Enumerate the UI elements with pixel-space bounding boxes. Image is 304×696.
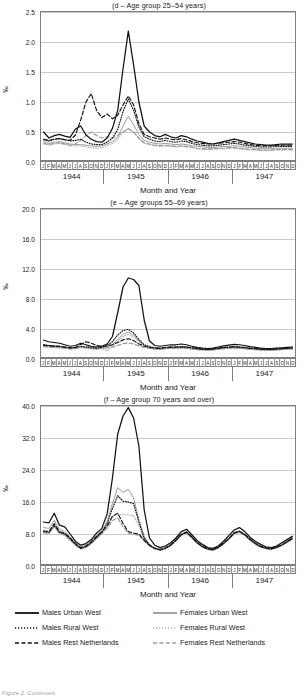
- year-label: 1944: [40, 367, 104, 381]
- legend-line-swatch: [152, 624, 178, 632]
- legend-item: Males Rural West: [14, 623, 152, 632]
- chart-panel: (d – Age group 25–54 years)0.00.51.01.52…: [0, 0, 304, 197]
- data-series: [44, 496, 293, 550]
- y-axis-tick-label: 8.0: [5, 296, 35, 303]
- data-series: [44, 488, 293, 550]
- y-axis-tick-label: 0.0: [5, 356, 35, 363]
- series-lines: [41, 209, 295, 359]
- legend-label: Males Rural West: [42, 623, 99, 632]
- year-label-row: 1944194519461947: [40, 170, 296, 184]
- x-axis-title: Month and Year: [40, 381, 296, 394]
- legend-item: Females Rural West: [152, 623, 290, 632]
- month-tick-row: JFMAMJJASONDJFMAMJJASONDJFMAMJJASONDJFMA…: [40, 358, 296, 367]
- chart-panel: (e – Age groups 55–69 years)0.04.08.012.…: [0, 197, 304, 394]
- legend-item: Females Rest Netherlands: [152, 638, 290, 647]
- year-label: 1944: [40, 574, 104, 588]
- year-label: 1945: [104, 367, 168, 381]
- chart-legend: Males Urban WestFemales Urban WestMales …: [14, 605, 290, 650]
- legend-line-swatch: [152, 639, 178, 647]
- y-axis-tick-label: 1.5: [5, 69, 35, 76]
- y-axis-tick-label: 0.5: [5, 129, 35, 136]
- data-series: [44, 94, 293, 146]
- data-series: [44, 31, 293, 145]
- y-axis-tick-label: 16.0: [5, 236, 35, 243]
- month-tick-row: JFMAMJJASONDJFMAMJJASONDJFMAMJJASONDJFMA…: [40, 565, 296, 574]
- year-label: 1946: [169, 574, 233, 588]
- series-lines: [41, 406, 295, 566]
- year-label: 1945: [104, 574, 168, 588]
- chart-panel: (f – Age group 70 years and over)0.08.01…: [0, 394, 304, 601]
- plot-area: 0.04.08.012.016.020.0: [40, 208, 296, 358]
- data-series: [44, 99, 293, 147]
- legend-label: Females Rural West: [180, 623, 245, 632]
- year-label: 1947: [233, 170, 296, 184]
- month-tick-row: JFMAMJJASONDJFMAMJJASONDJFMAMJJASONDJFMA…: [40, 161, 296, 170]
- panel-title: (e – Age groups 55–69 years): [0, 197, 304, 208]
- legend-item: Females Urban West: [152, 608, 290, 617]
- data-series: [44, 329, 293, 349]
- y-axis-unit-label: ‰: [2, 86, 9, 93]
- figure-caption: Figure 2. Continued.: [2, 690, 56, 696]
- y-axis-tick-label: 40.0: [5, 403, 35, 410]
- month-tick-label: D: [291, 565, 295, 574]
- year-label: 1947: [233, 574, 296, 588]
- y-axis-tick-label: 0.0: [5, 563, 35, 570]
- y-axis-tick-label: 2.5: [5, 9, 35, 16]
- y-axis-tick-label: 32.0: [5, 435, 35, 442]
- legend-item: Males Rest Netherlands: [14, 638, 152, 647]
- plot-area: 0.08.016.024.032.040.0: [40, 405, 296, 565]
- legend-line-swatch: [14, 639, 40, 647]
- y-axis-tick-label: 2.0: [5, 39, 35, 46]
- series-lines: [41, 12, 295, 162]
- x-axis-title: Month and Year: [40, 588, 296, 601]
- y-axis-tick-label: 0.0: [5, 159, 35, 166]
- y-axis-unit-label: ‰: [2, 283, 9, 290]
- legend-line-swatch: [152, 609, 178, 617]
- panel-title: (d – Age group 25–54 years): [0, 0, 304, 11]
- year-label: 1944: [40, 170, 104, 184]
- year-label: 1946: [169, 367, 233, 381]
- month-tick-label: D: [291, 161, 295, 170]
- year-label: 1945: [104, 170, 168, 184]
- legend-label: Females Urban West: [180, 608, 247, 617]
- year-label: 1946: [169, 170, 233, 184]
- legend-line-swatch: [14, 624, 40, 632]
- legend-label: Females Rest Netherlands: [180, 638, 265, 647]
- year-label: 1947: [233, 367, 296, 381]
- y-axis-tick-label: 16.0: [5, 499, 35, 506]
- year-label-row: 1944194519461947: [40, 574, 296, 588]
- y-axis-tick-label: 20.0: [5, 206, 35, 213]
- y-axis-tick-label: 12.0: [5, 266, 35, 273]
- data-series: [44, 278, 293, 349]
- year-label-row: 1944194519461947: [40, 367, 296, 381]
- y-axis-tick-label: 4.0: [5, 326, 35, 333]
- y-axis-tick-label: 24.0: [5, 467, 35, 474]
- y-axis-tick-label: 8.0: [5, 531, 35, 538]
- data-series: [44, 408, 293, 549]
- y-axis-tick-label: 1.0: [5, 99, 35, 106]
- legend-item: Males Urban West: [14, 608, 152, 617]
- panel-title: (f – Age group 70 years and over): [0, 394, 304, 405]
- month-tick-label: D: [291, 358, 295, 367]
- plot-area: 0.00.51.01.52.02.5: [40, 11, 296, 161]
- legend-label: Males Rest Netherlands: [42, 638, 119, 647]
- legend-line-swatch: [14, 609, 40, 617]
- legend-label: Males Urban West: [42, 608, 101, 617]
- x-axis-title: Month and Year: [40, 184, 296, 197]
- y-axis-unit-label: ‰: [2, 485, 9, 492]
